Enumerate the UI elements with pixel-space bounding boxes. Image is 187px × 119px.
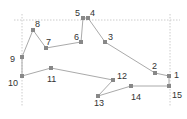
polygon-diagram: 123456789101112131415 [0,0,187,119]
vertex-label-7: 7 [46,37,51,47]
vertex-label-5: 5 [75,8,80,18]
vertex-label-12: 12 [117,71,127,81]
vertex-label-2: 2 [152,61,157,71]
edge-3-4 [88,18,105,42]
vertex-label-9: 9 [10,54,15,64]
edge-8-9 [22,30,33,57]
vertex-15 [167,84,171,88]
vertex-label-10: 10 [8,78,18,88]
vertex-3 [103,40,107,44]
vertex-5 [81,16,85,20]
edge-1-2 [155,73,169,76]
vertex-label-6: 6 [74,32,79,42]
vertex-label-1: 1 [174,70,179,80]
vertex-label-4: 4 [90,8,95,18]
edge-11-12 [51,68,113,80]
edge-6-7 [46,42,81,48]
vertex-label-13: 13 [94,98,104,108]
vertex-label-14: 14 [131,92,141,102]
vertex-10 [20,74,24,78]
vertex-label-3: 3 [108,32,113,42]
vertex-12 [111,78,115,82]
vertex-label-11: 11 [47,74,56,84]
vertex-11 [49,66,53,70]
polygon-edges [22,18,169,96]
vertex-label-15: 15 [172,90,182,100]
vertex-6 [79,40,83,44]
vertex-9 [20,55,24,59]
edge-2-3 [105,42,155,73]
vertex-14 [129,84,133,88]
edge-7-8 [33,30,46,48]
vertex-label-8: 8 [35,19,40,29]
vertex-1 [167,74,171,78]
vertex-labels: 123456789101112131415 [8,8,182,108]
edge-5-6 [81,18,83,42]
vertex-2 [153,71,157,75]
